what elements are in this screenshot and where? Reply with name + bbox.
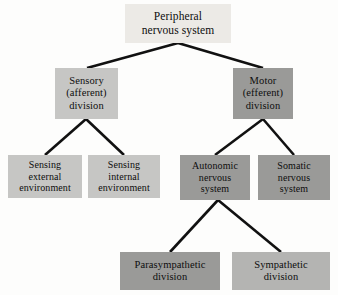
node-label: Motor (efferent) division (243, 75, 283, 112)
edge-sensory-to-sensing-external (45, 119, 86, 155)
node-parasympathetic-division: Parasympathetic division (120, 252, 220, 290)
connector-lines (0, 0, 338, 295)
edge-motor-to-somatic (263, 119, 294, 155)
node-label: Peripheral nervous system (142, 10, 215, 37)
node-sensing-internal-environment: Sensing internal environment (88, 155, 160, 198)
node-somatic-nervous-system: Somatic nervous system (258, 155, 330, 200)
edge-pns-to-sensory (87, 43, 178, 68)
node-label: Sympathetic division (254, 259, 308, 283)
peripheral-nervous-system-diagram: Peripheral nervous system Sensory (affer… (0, 0, 338, 295)
edge-pns-to-motor (178, 43, 263, 68)
edge-autonomic-to-sympathetic (218, 200, 281, 252)
node-autonomic-nervous-system: Autonomic nervous system (180, 155, 250, 200)
node-label: Autonomic nervous system (192, 160, 238, 195)
edge-sensory-to-sensing-internal (86, 119, 124, 155)
node-motor-efferent-division: Motor (efferent) division (233, 68, 293, 119)
node-label: Sensing internal environment (98, 159, 150, 194)
node-peripheral-nervous-system: Peripheral nervous system (125, 4, 231, 43)
edge-autonomic-to-parasympathetic (170, 200, 218, 252)
node-label: Parasympathetic division (135, 259, 206, 283)
node-label: Somatic nervous system (277, 160, 310, 195)
node-sensory-afferent-division: Sensory (afferent) division (55, 68, 118, 119)
node-label: Sensing external environment (19, 159, 71, 194)
edge-motor-to-autonomic (215, 119, 263, 155)
node-label: Sensory (afferent) division (66, 75, 106, 112)
node-sympathetic-division: Sympathetic division (232, 252, 330, 290)
node-sensing-external-environment: Sensing external environment (8, 155, 82, 198)
